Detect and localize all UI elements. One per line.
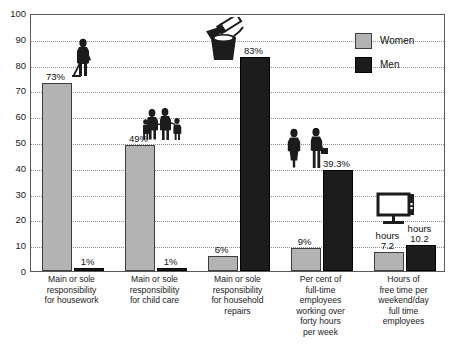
bar-men[interactable]	[240, 57, 270, 271]
x-axis-label-0: Main or sole responsibility for housewor…	[30, 274, 113, 306]
y-axis-tick-label: 10	[0, 241, 26, 251]
bar-men[interactable]	[157, 268, 187, 271]
y-axis-tick-label: 20	[0, 215, 26, 225]
legend-swatch-men	[355, 57, 372, 73]
y-axis-tick-label: 30	[0, 190, 26, 200]
bar-women[interactable]	[125, 145, 155, 271]
y-axis-tick-label: 60	[0, 112, 26, 122]
bar-value-label: 1%	[148, 257, 194, 267]
bar-value-label: 6%	[199, 245, 245, 255]
bar-value-label: hours 10.2	[397, 224, 443, 244]
y-axis-tick-label: 50	[0, 138, 26, 148]
bar-value-label: 49%	[116, 134, 162, 144]
x-axis-label-3: Per cent of full-time employees working …	[279, 274, 362, 338]
legend-swatch-women	[355, 33, 372, 49]
x-axis-category-labels: Main or sole responsibility for housewor…	[30, 274, 445, 349]
y-axis: 1009080706050403020100	[0, 0, 28, 349]
bar-value-label: 83%	[231, 46, 277, 56]
bar-chart: 1009080706050403020100	[0, 0, 456, 349]
bar-men[interactable]	[323, 170, 353, 271]
bar-women[interactable]	[291, 248, 321, 271]
legend-item-women[interactable]: Women	[355, 33, 439, 49]
x-axis-label-1: Main or sole responsibility for child ca…	[113, 274, 196, 306]
television-monitor-icon	[376, 192, 416, 226]
y-axis-tick-label: 90	[0, 35, 26, 45]
x-axis-label-2: Main or sole responsibility for househol…	[196, 274, 279, 316]
bar-value-label: 39.3%	[314, 159, 360, 169]
bar-value-label: 1%	[65, 257, 111, 267]
y-axis-tick-label: 70	[0, 86, 26, 96]
y-axis-tick-label: 0	[0, 267, 26, 277]
bar-value-label: 9%	[282, 237, 328, 247]
legend: Women Men	[355, 33, 439, 81]
legend-label-men: Men	[380, 60, 399, 70]
legend-label-women: Women	[380, 36, 414, 46]
y-axis-tick-label: 80	[0, 61, 26, 71]
y-axis-tick-label: 100	[0, 9, 26, 19]
y-axis-tick-label: 40	[0, 164, 26, 174]
x-axis-label-4: Hours of free time per weekend/day full …	[362, 274, 445, 327]
bar-women[interactable]	[208, 256, 238, 271]
legend-item-men[interactable]: Men	[355, 57, 439, 73]
bar-value-label: 73%	[33, 72, 79, 82]
bar-women[interactable]	[42, 83, 72, 271]
paint-bucket-brush-icon	[202, 17, 250, 63]
bar-men[interactable]	[74, 268, 104, 271]
bar-women[interactable]	[374, 252, 404, 271]
